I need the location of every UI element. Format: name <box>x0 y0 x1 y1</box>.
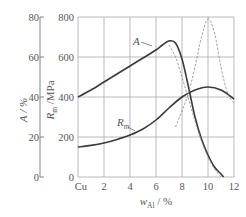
rm-axis-tick-label: 400 <box>58 92 74 103</box>
a-axis-tick-label: 60 <box>29 52 40 63</box>
curve-label-rm: Rm <box>116 116 130 131</box>
rm-axis-title-unit: /MPa <box>44 80 56 107</box>
series-line-dashed <box>176 19 235 127</box>
x-axis-tick-label: 12 <box>229 181 240 192</box>
a-axis-tick-label: 40 <box>29 92 40 103</box>
x-axis-title: wAl / % <box>140 195 173 210</box>
x-axis-tick-label: 8 <box>179 181 184 192</box>
a-axis-tick-label: 80 <box>29 12 40 23</box>
curve-label-a: A <box>132 35 140 47</box>
a-axis-tick-label: 20 <box>29 132 40 143</box>
series-line-a <box>78 41 224 177</box>
rm-axis-title: Rm /MPa <box>44 80 59 120</box>
grid <box>78 17 234 177</box>
x-axis-title-sub: Al <box>147 201 155 210</box>
series-line-dashed <box>169 45 221 177</box>
rm-axis-tick-label: 200 <box>58 132 74 143</box>
a-axis-title: A / % <box>17 98 29 123</box>
x-axis-tick-label: 6 <box>153 181 158 192</box>
x-axis-title-unit: / % <box>155 195 173 207</box>
x-axis-tick-label: 10 <box>203 181 214 192</box>
rm-axis-tick-label: 0 <box>69 172 74 183</box>
x-axis-tick-label: 2 <box>101 181 106 192</box>
curve-label-a-leader <box>141 42 152 46</box>
rm-axis-tick-label: 600 <box>58 52 74 63</box>
chart: 0204060800200400600800Cu24681012 ARmA / … <box>0 0 246 217</box>
rm-axis-tick-label: 800 <box>58 12 74 23</box>
curve-label-rm-sub: m <box>124 122 130 131</box>
a-axis-tick-label: 0 <box>34 172 39 183</box>
x-axis-tick-label: Cu <box>75 181 88 192</box>
x-axis-tick-label: 4 <box>127 181 133 192</box>
